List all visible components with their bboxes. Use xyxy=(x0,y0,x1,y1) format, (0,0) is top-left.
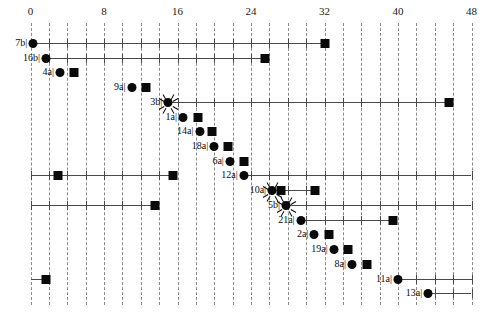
task-start-marker[interactable] xyxy=(210,142,219,151)
line-tick xyxy=(435,289,436,298)
line-tick xyxy=(67,54,68,63)
line-tick xyxy=(196,54,197,63)
summary-bar-marker[interactable] xyxy=(42,275,51,284)
gantt-chart: 081624324048 7b|16b|4a|9a|3b|1a|14a|18a|… xyxy=(0,0,489,313)
axis-tick-label: 8 xyxy=(101,6,107,17)
line-tick xyxy=(398,98,399,107)
task-end-marker[interactable] xyxy=(193,113,202,122)
line-tick xyxy=(49,39,50,48)
line-tick xyxy=(306,39,307,48)
line-tick xyxy=(104,54,105,63)
task-label: 4a| xyxy=(42,67,53,77)
task-label: 13a| xyxy=(406,288,422,298)
task-end-marker[interactable] xyxy=(311,186,320,195)
line-tick xyxy=(306,98,307,107)
task-start-marker[interactable] xyxy=(127,83,136,92)
line-tick xyxy=(86,54,87,63)
line-tick xyxy=(31,201,32,210)
task-label: 1a| xyxy=(166,112,177,122)
task-end-marker[interactable] xyxy=(320,39,329,48)
task-row: 19a| xyxy=(0,242,489,257)
line-tick xyxy=(288,186,289,195)
line-tick xyxy=(86,171,87,180)
line-tick xyxy=(122,201,123,210)
line-tick xyxy=(67,201,68,210)
task-start-marker[interactable] xyxy=(179,113,188,122)
task-start-marker[interactable] xyxy=(29,39,38,48)
line-tick xyxy=(104,201,105,210)
summary-bar-marker[interactable] xyxy=(150,201,159,210)
summary-bar-row xyxy=(0,168,489,183)
line-tick xyxy=(49,171,50,180)
line-tick xyxy=(141,171,142,180)
line-tick xyxy=(178,39,179,48)
line-tick xyxy=(159,39,160,48)
task-row: 14a| xyxy=(0,124,489,139)
task-end-marker[interactable] xyxy=(69,68,78,77)
task-label: 9a| xyxy=(114,82,125,92)
line-tick xyxy=(214,54,215,63)
task-label: 7b| xyxy=(15,38,27,48)
line-tick xyxy=(288,39,289,48)
task-row: 3b| xyxy=(0,95,489,110)
task-start-marker[interactable] xyxy=(225,157,234,166)
line-tick xyxy=(159,171,160,180)
task-row: 2a| xyxy=(0,227,489,242)
line-tick xyxy=(453,289,454,298)
axis-tick-label: 16 xyxy=(172,6,183,17)
task-end-marker[interactable] xyxy=(362,260,371,269)
line-tick xyxy=(251,39,252,48)
line-tick xyxy=(141,39,142,48)
task-duration-line xyxy=(31,175,173,176)
line-tick xyxy=(86,201,87,210)
task-start-marker[interactable] xyxy=(329,245,338,254)
task-label: 18a| xyxy=(192,141,208,151)
task-label: 19a| xyxy=(311,244,327,254)
line-tick xyxy=(86,39,87,48)
line-tick xyxy=(196,98,197,107)
task-end-marker[interactable] xyxy=(389,216,398,225)
line-tick xyxy=(233,54,234,63)
line-tick xyxy=(325,216,326,225)
line-tick xyxy=(178,54,179,63)
line-tick xyxy=(306,216,307,225)
line-tick xyxy=(251,98,252,107)
task-end-marker[interactable] xyxy=(142,83,151,92)
summary-bar-marker[interactable] xyxy=(168,171,177,180)
task-end-marker[interactable] xyxy=(325,230,334,239)
line-tick xyxy=(416,98,417,107)
axis-tick-label: 48 xyxy=(466,6,477,17)
task-label: 14a| xyxy=(177,126,193,136)
task-row: 7b| xyxy=(0,36,489,51)
task-end-marker[interactable] xyxy=(344,245,353,254)
task-duration-line xyxy=(168,102,449,103)
line-tick xyxy=(67,171,68,180)
task-start-marker[interactable] xyxy=(195,127,204,136)
axis-tick-label: 40 xyxy=(393,6,404,17)
task-start-marker[interactable] xyxy=(55,68,64,77)
line-tick xyxy=(49,201,50,210)
line-tick xyxy=(380,98,381,107)
task-end-marker[interactable] xyxy=(239,157,248,166)
line-tick xyxy=(122,39,123,48)
task-row: 6a| xyxy=(0,154,489,169)
task-start-marker[interactable] xyxy=(42,54,51,63)
task-start-marker[interactable] xyxy=(296,216,305,225)
summary-bar-row xyxy=(0,272,489,287)
line-tick xyxy=(122,171,123,180)
line-tick xyxy=(472,289,473,298)
task-row: 21a| xyxy=(0,213,489,228)
task-start-marker[interactable] xyxy=(348,260,357,269)
task-start-marker[interactable] xyxy=(310,230,319,239)
task-label: 6a| xyxy=(212,156,223,166)
axis-tick-label: 32 xyxy=(319,6,330,17)
summary-bar-marker[interactable] xyxy=(54,171,63,180)
task-start-marker[interactable] xyxy=(424,289,433,298)
task-label: 16b| xyxy=(23,53,40,63)
line-tick xyxy=(141,54,142,63)
task-end-marker[interactable] xyxy=(224,142,233,151)
task-end-marker[interactable] xyxy=(208,127,217,136)
task-end-marker[interactable] xyxy=(260,54,269,63)
line-tick xyxy=(361,216,362,225)
task-end-marker[interactable] xyxy=(445,98,454,107)
